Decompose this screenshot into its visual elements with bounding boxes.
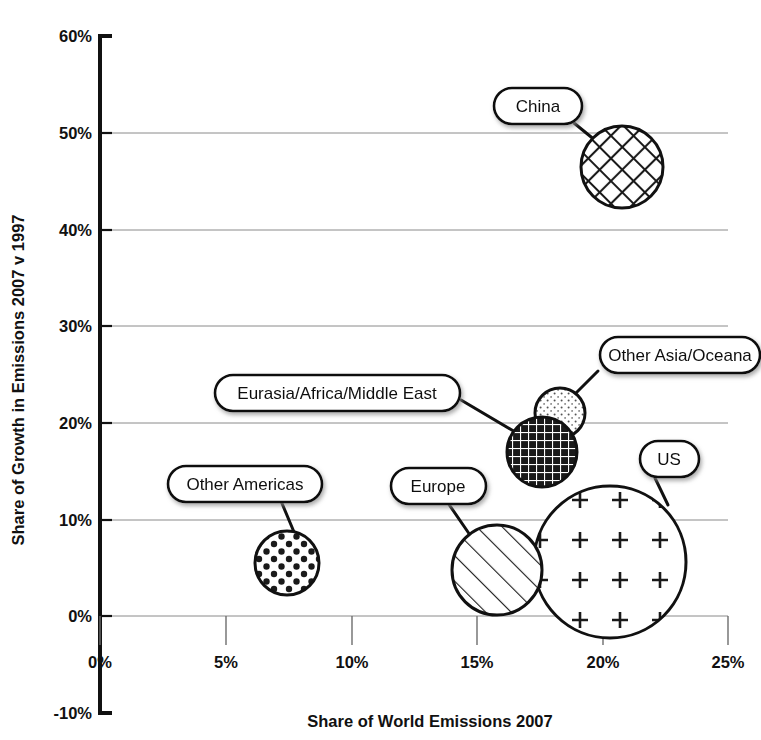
- x-tick-label-0: 0%: [88, 653, 112, 671]
- bubble-europe[interactable]: [452, 525, 542, 615]
- callout-label-china: China: [516, 97, 561, 116]
- bubble-us[interactable]: [534, 486, 686, 638]
- y-tick-label-30: 30%: [59, 317, 92, 335]
- x-tick-label-5: 5%: [214, 653, 238, 671]
- callout-label-us: US: [657, 450, 681, 469]
- y-tick-label-60: 60%: [59, 27, 92, 45]
- leader-europe: [448, 503, 470, 535]
- leader-other-americas: [281, 501, 294, 532]
- callout-label-other-asia-oceana: Other Asia/Oceana: [608, 346, 752, 365]
- y-tick-label-40: 40%: [59, 221, 92, 239]
- y-tick-label-50: 50%: [59, 124, 92, 142]
- x-tick-label-25: 25%: [711, 653, 744, 671]
- x-tick-labels: 0% 5% 10% 15% 20% 25%: [88, 653, 745, 671]
- callout-label-other-americas: Other Americas: [186, 475, 303, 494]
- callout-europe[interactable]: Europe: [391, 468, 486, 504]
- y-tick-label-20: 20%: [59, 414, 92, 432]
- bubble-other-americas[interactable]: [255, 531, 319, 595]
- x-tick-label-15: 15%: [460, 653, 493, 671]
- bubble-eurasia-africa-middle-east[interactable]: [507, 417, 577, 487]
- x-axis-title: Share of World Emissions 2007: [307, 712, 552, 730]
- callout-label-eurasia-africa-middle-east: Eurasia/Africa/Middle East: [237, 384, 437, 403]
- callout-eurasia-africa-middle-east[interactable]: Eurasia/Africa/Middle East: [215, 375, 460, 411]
- y-tick-label-10: 10%: [59, 511, 92, 529]
- bubble-china[interactable]: [581, 126, 663, 208]
- x-tick-label-10: 10%: [335, 653, 368, 671]
- callout-china[interactable]: China: [494, 88, 582, 124]
- bubble-chart: 60% 50% 40% 30% 20% 10% 0% -10% 0% 5% 10…: [0, 0, 761, 740]
- y-axis-line: [100, 36, 112, 713]
- callout-label-europe: Europe: [411, 477, 466, 496]
- x-tick-label-20: 20%: [586, 653, 619, 671]
- y-tick-label-neg10: -10%: [53, 704, 92, 722]
- chart-canvas: 60% 50% 40% 30% 20% 10% 0% -10% 0% 5% 10…: [0, 0, 761, 740]
- y-tick-labels: 60% 50% 40% 30% 20% 10% 0% -10%: [53, 27, 92, 722]
- y-axis-title: Share of Growth in Emissions 2007 v 1997: [9, 214, 27, 545]
- callout-us[interactable]: US: [640, 441, 699, 477]
- y-tick-label-0: 0%: [68, 607, 92, 625]
- callout-other-asia-oceana[interactable]: Other Asia/Oceana: [600, 337, 760, 373]
- callout-other-americas[interactable]: Other Americas: [168, 466, 322, 502]
